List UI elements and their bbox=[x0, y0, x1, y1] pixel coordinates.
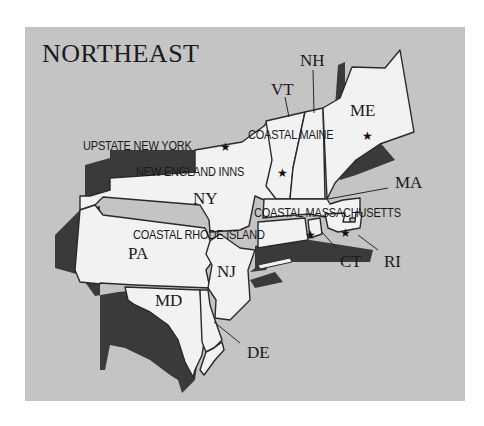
destination-new-england-inns: NEW ENGLAND INNS bbox=[136, 166, 244, 178]
state-label-pa: PA bbox=[128, 245, 148, 262]
star-icon: ★ bbox=[277, 167, 288, 179]
destination-coastal-maine: COASTAL MAINE bbox=[248, 129, 333, 141]
state-label-ny: NY bbox=[193, 190, 218, 207]
state-label-vt: VT bbox=[271, 81, 294, 98]
state-label-nh: NH bbox=[300, 52, 325, 69]
state-label-me: ME bbox=[350, 102, 376, 119]
state-label-nj: NJ bbox=[217, 263, 236, 280]
map-title: NORTHEAST bbox=[42, 39, 200, 69]
star-icon: ★ bbox=[340, 227, 351, 239]
state-label-ct: CT bbox=[340, 253, 362, 270]
destination-upstate-new-york: UPSTATE NEW YORK bbox=[83, 140, 192, 152]
state-label-md: MD bbox=[155, 292, 182, 309]
star-icon: ★ bbox=[362, 130, 373, 142]
state-label-ma: MA bbox=[395, 174, 422, 191]
state-label-de: DE bbox=[247, 344, 270, 361]
star-icon: ★ bbox=[220, 141, 231, 153]
state-label-ri: RI bbox=[384, 253, 401, 270]
destination-coastal-massachusetts: COASTAL MASSACHUSETTS bbox=[254, 207, 401, 219]
destination-coastal-rhode-island: COASTAL RHODE ISLAND bbox=[133, 229, 265, 241]
star-icon: ★ bbox=[305, 229, 316, 241]
